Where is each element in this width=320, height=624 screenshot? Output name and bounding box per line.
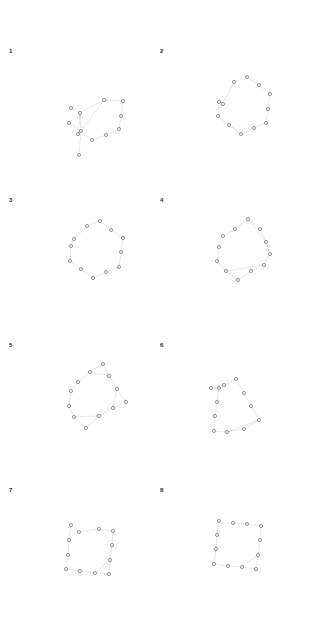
graph-edge	[110, 545, 112, 560]
graph-node	[76, 380, 79, 383]
graph-edge	[217, 261, 226, 271]
graph-node	[90, 138, 93, 141]
graph-node	[249, 404, 252, 407]
graph-node	[72, 415, 75, 418]
graph-edge	[80, 100, 104, 113]
graph-edge	[248, 219, 260, 229]
graph-node	[85, 224, 88, 227]
graph-node	[117, 127, 120, 130]
graph-node	[215, 259, 218, 262]
graph-node	[258, 538, 261, 541]
graph-node	[98, 219, 101, 222]
graph-node	[257, 418, 260, 421]
graph-edge	[233, 523, 247, 524]
graph-edge	[104, 100, 123, 101]
graph-edge	[74, 226, 87, 239]
graph-node	[246, 217, 249, 220]
graph-node	[109, 228, 112, 231]
graph-node	[107, 374, 110, 377]
graph-edge	[228, 566, 242, 567]
graph-edge	[112, 531, 113, 545]
graph-edge	[214, 416, 215, 431]
graph-node	[101, 362, 104, 365]
graph-edge	[268, 94, 270, 109]
graph-node	[231, 521, 234, 524]
graph-node	[66, 553, 69, 556]
graph-node	[234, 377, 237, 380]
panel-6-graph	[209, 377, 260, 433]
graph-edge	[70, 246, 71, 261]
graph-node	[111, 529, 114, 532]
graph-node	[245, 75, 248, 78]
graph-node	[97, 527, 100, 530]
panel-8-graph	[212, 519, 262, 570]
graph-edge	[238, 271, 251, 280]
graph-node	[217, 386, 220, 389]
graph-edge	[216, 535, 217, 549]
graph-node	[226, 564, 229, 567]
graph-edge	[214, 549, 216, 564]
graph-node	[64, 567, 67, 570]
graph-node	[222, 383, 225, 386]
graph-edge	[248, 219, 266, 242]
graph-node	[67, 404, 70, 407]
graph-edge	[90, 372, 109, 376]
graph-edge	[103, 364, 109, 376]
graph-node	[124, 400, 127, 403]
graph-edge	[224, 379, 236, 385]
graph-node	[77, 153, 80, 156]
graph-node	[217, 519, 220, 522]
graph-node	[69, 523, 72, 526]
graph-node	[212, 429, 215, 432]
graph-edge	[80, 113, 81, 131]
graph-edge	[68, 540, 69, 555]
graph-node	[84, 426, 87, 429]
graph-edge	[217, 247, 219, 261]
graph-node	[79, 267, 82, 270]
graph-edge	[236, 379, 244, 393]
graph-edge	[66, 555, 68, 569]
graph-edge	[218, 102, 219, 116]
graph-node	[69, 389, 72, 392]
graph-edge	[70, 261, 81, 269]
graph-edge	[241, 128, 254, 134]
graph-node	[252, 126, 255, 129]
graph-node	[93, 571, 96, 574]
graph-node	[268, 92, 271, 95]
graph-node	[67, 121, 70, 124]
graph-edge	[229, 125, 241, 134]
graph-edge	[111, 230, 123, 238]
graph-edge	[95, 573, 109, 574]
graph-edge	[266, 109, 268, 123]
graph-edge	[244, 420, 259, 429]
graph-edge	[223, 229, 235, 236]
graph-edge	[93, 272, 106, 278]
graph-node	[240, 565, 243, 568]
graph-edge	[95, 560, 110, 573]
graph-edge	[247, 524, 261, 526]
graph-node	[217, 245, 220, 248]
graph-node	[262, 263, 265, 266]
graph-node	[110, 543, 113, 546]
graph-node	[215, 400, 218, 403]
panel-5-graph	[67, 362, 127, 429]
graph-edge	[121, 101, 123, 116]
graph-edge	[69, 525, 71, 540]
graph-node	[97, 414, 100, 417]
graph-edge	[74, 416, 99, 417]
graph-edge	[215, 402, 217, 416]
graph-node	[268, 252, 271, 255]
graph-edge	[92, 135, 106, 140]
graph-node	[67, 538, 70, 541]
graph-edge	[227, 429, 244, 432]
graph-node	[227, 123, 230, 126]
graph-node	[242, 427, 245, 430]
graph-node	[257, 83, 260, 86]
graph-node	[225, 430, 228, 433]
graph-node	[119, 250, 122, 253]
graph-edge	[81, 269, 93, 278]
graph-edge	[247, 77, 259, 85]
graph-node	[216, 114, 219, 117]
graph-edge	[251, 265, 264, 271]
graph-node	[104, 270, 107, 273]
